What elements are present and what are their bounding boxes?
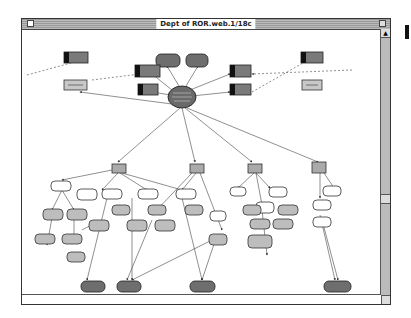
title-bar[interactable]: Dept of ROR.web.1/18c	[22, 19, 390, 30]
light-box-node[interactable]	[302, 80, 322, 90]
gray-node[interactable]	[250, 219, 270, 229]
gray-node[interactable]	[43, 209, 63, 220]
gray-node[interactable]	[148, 205, 166, 215]
edge-marker	[405, 25, 409, 39]
gray-node[interactable]	[89, 220, 109, 231]
white-node[interactable]	[51, 181, 71, 191]
top-dark-node[interactable]	[186, 54, 208, 67]
gray-node[interactable]	[209, 234, 227, 245]
tab-node[interactable]	[138, 84, 158, 95]
bottom-dark-node[interactable]	[81, 281, 105, 292]
tab-node[interactable]	[301, 52, 323, 63]
white-node[interactable]	[77, 189, 97, 200]
center-node[interactable]	[168, 86, 196, 108]
white-node[interactable]	[313, 217, 331, 227]
tab-node[interactable]	[230, 84, 251, 95]
gray-node[interactable]	[273, 219, 293, 229]
white-node[interactable]	[210, 211, 226, 221]
gray-node[interactable]	[185, 205, 203, 215]
category-box[interactable]	[248, 164, 262, 173]
window-title: Dept of ROR.web.1/18c	[156, 19, 255, 29]
horizontal-bar	[22, 294, 381, 304]
gray-node[interactable]	[278, 205, 298, 215]
white-node[interactable]	[313, 200, 331, 210]
gray-node[interactable]	[112, 205, 130, 215]
tab-node[interactable]	[230, 65, 251, 77]
gray-node[interactable]	[243, 205, 261, 215]
gray-node[interactable]	[67, 252, 85, 262]
white-node[interactable]	[176, 189, 196, 199]
bottom-dark-node[interactable]	[117, 281, 141, 292]
gray-node[interactable]	[155, 220, 175, 231]
gray-node[interactable]	[127, 220, 147, 231]
white-node[interactable]	[269, 187, 287, 197]
grow-box-icon[interactable]	[381, 295, 390, 304]
zoom-box-icon[interactable]	[379, 20, 386, 27]
vertical-scrollbar[interactable]: ▲	[380, 29, 390, 295]
white-node[interactable]	[138, 189, 158, 199]
category-box[interactable]	[312, 162, 326, 173]
light-box-node[interactable]	[64, 80, 87, 90]
gray-node[interactable]	[35, 234, 55, 244]
gray-node[interactable]	[248, 235, 272, 248]
category-box[interactable]	[190, 164, 204, 173]
tab-node[interactable]	[64, 52, 88, 63]
app-window: Dept of ROR.web.1/18c	[21, 18, 391, 305]
tab-node[interactable]	[135, 65, 160, 77]
gray-node[interactable]	[67, 209, 87, 220]
category-box[interactable]	[112, 164, 126, 173]
scroll-up-arrow-icon[interactable]: ▲	[381, 29, 390, 38]
bottom-dark-node[interactable]	[190, 281, 215, 292]
scroll-thumb[interactable]	[381, 194, 390, 204]
close-box-icon[interactable]	[27, 20, 34, 27]
concept-map-diagram	[22, 30, 382, 296]
bottom-dark-node[interactable]	[324, 281, 351, 292]
white-node[interactable]	[102, 189, 122, 199]
gray-node[interactable]	[62, 234, 82, 244]
white-node[interactable]	[323, 186, 341, 196]
white-node[interactable]	[230, 187, 246, 196]
concept-map-canvas[interactable]	[22, 30, 380, 294]
